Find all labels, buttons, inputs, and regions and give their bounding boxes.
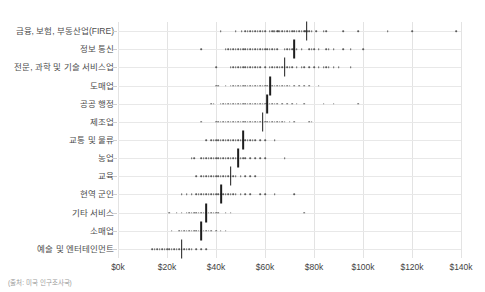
data-point <box>232 67 234 69</box>
data-point <box>203 176 205 178</box>
data-point <box>183 230 185 232</box>
data-point <box>232 157 234 159</box>
data-point <box>303 67 305 69</box>
data-point <box>245 194 247 196</box>
data-point <box>318 85 320 87</box>
data-point <box>215 230 217 232</box>
data-point <box>286 48 288 50</box>
y-axis-tick <box>113 122 117 123</box>
data-point <box>171 230 173 232</box>
data-point <box>230 48 232 50</box>
data-point <box>291 67 293 69</box>
data-point <box>191 157 193 159</box>
data-point <box>181 212 183 214</box>
data-point <box>240 157 242 159</box>
data-point <box>232 85 234 87</box>
data-point <box>284 30 286 32</box>
data-point <box>220 139 222 141</box>
data-point <box>215 121 217 123</box>
data-point <box>245 85 247 87</box>
data-point <box>250 103 252 105</box>
data-point <box>215 139 217 141</box>
data-point <box>161 248 163 250</box>
y-axis-tick <box>113 158 117 159</box>
y-axis-tick-label: 기타 서비스 <box>0 208 114 217</box>
data-point <box>250 85 252 87</box>
data-point <box>242 157 244 159</box>
median-marker <box>205 203 207 222</box>
data-point <box>262 85 264 87</box>
data-point <box>247 103 249 105</box>
data-point <box>188 230 190 232</box>
data-point <box>186 212 188 214</box>
data-point <box>281 67 283 69</box>
data-point <box>230 194 232 196</box>
data-point <box>237 67 239 69</box>
data-point <box>247 121 249 123</box>
data-point <box>218 194 220 196</box>
data-point <box>227 194 229 196</box>
data-point <box>274 48 276 50</box>
data-point <box>262 48 264 50</box>
data-point <box>220 30 222 32</box>
data-point <box>201 248 203 250</box>
data-point <box>213 194 215 196</box>
data-point <box>281 121 283 123</box>
x-axis-tick-label: $120k <box>400 262 423 272</box>
data-point <box>289 67 291 69</box>
data-point <box>296 67 298 69</box>
data-point <box>171 248 173 250</box>
data-point <box>264 157 266 159</box>
y-axis-tick <box>113 140 117 141</box>
y-axis-tick <box>113 104 117 105</box>
data-point <box>230 103 232 105</box>
data-point <box>281 30 283 32</box>
data-point <box>230 212 232 214</box>
data-point <box>174 248 176 250</box>
data-point <box>272 85 274 87</box>
x-axis-tick-label: $140k <box>449 262 472 272</box>
data-point <box>262 30 264 32</box>
data-point <box>257 30 259 32</box>
median-marker <box>242 131 244 150</box>
data-point <box>196 248 198 250</box>
data-point <box>215 67 217 69</box>
data-point <box>235 139 237 141</box>
data-point <box>289 30 291 32</box>
data-point <box>215 194 217 196</box>
data-point <box>156 248 158 250</box>
data-point <box>210 103 212 105</box>
y-axis-tick-label: 금융, 보험, 부동산업(FIRE) <box>0 27 114 36</box>
data-point <box>235 176 237 178</box>
data-point <box>205 194 207 196</box>
data-point <box>240 48 242 50</box>
data-point <box>328 67 330 69</box>
data-point <box>303 103 305 105</box>
median-marker <box>306 22 308 41</box>
data-point <box>250 194 252 196</box>
data-point <box>201 48 203 50</box>
data-point <box>318 67 320 69</box>
data-point <box>308 85 310 87</box>
y-axis-tick-label: 교육 <box>0 172 114 181</box>
y-axis-tick-label: 농업 <box>0 154 114 163</box>
data-point <box>208 194 210 196</box>
data-point <box>286 103 288 105</box>
y-axis-tick <box>113 31 117 32</box>
data-point <box>218 212 220 214</box>
data-point <box>289 121 291 123</box>
data-point <box>245 121 247 123</box>
chart-title-strip <box>0 0 485 10</box>
data-point <box>284 48 286 50</box>
plot-area <box>118 22 461 258</box>
data-point <box>242 103 244 105</box>
data-point <box>220 176 222 178</box>
data-point <box>213 157 215 159</box>
data-point <box>215 85 217 87</box>
data-point <box>350 48 352 50</box>
data-point <box>267 48 269 50</box>
data-point <box>411 30 413 32</box>
data-point <box>232 48 234 50</box>
x-axis-tick-label: $40k <box>207 262 225 272</box>
y-axis-tick <box>113 213 117 214</box>
